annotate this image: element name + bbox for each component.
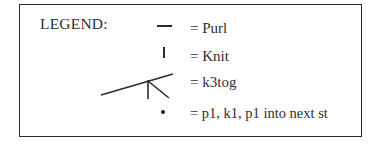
bobble-dot-symbol — [161, 110, 165, 114]
legend-figure: LEGEND: = Purl = Knit = k3tog — [0, 0, 379, 149]
legend-row-purl: = Purl — [95, 14, 357, 42]
legend-label-knit: = Knit — [190, 42, 229, 70]
symbol-cell-k3tog — [95, 68, 185, 96]
purl-dash-symbol — [157, 25, 172, 27]
legend-row-bobble: = p1, k1, p1 into next st — [95, 99, 357, 127]
knit-bar-symbol — [163, 47, 165, 58]
legend-row-k3tog: = k3tog — [95, 68, 357, 96]
legend-row-knit: = Knit — [95, 42, 357, 70]
legend-label-k3tog: = k3tog — [190, 68, 236, 96]
symbol-cell-bobble — [95, 99, 185, 127]
legend-label-purl: = Purl — [190, 14, 227, 42]
legend-label-bobble: = p1, k1, p1 into next st — [190, 99, 328, 127]
symbol-cell-knit — [95, 42, 185, 70]
k3tog-symbol — [95, 68, 185, 102]
symbol-cell-purl — [95, 14, 185, 42]
